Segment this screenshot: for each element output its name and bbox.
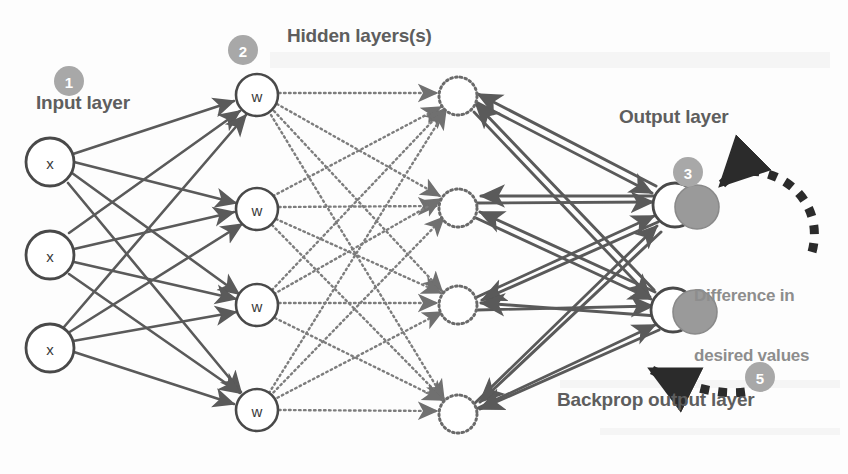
weight-node-1 xyxy=(236,74,278,116)
weight-node-4 xyxy=(236,389,278,431)
output-layer-label: Output layer xyxy=(619,106,729,128)
badge-2-circle xyxy=(228,35,258,65)
hidden-layer-1-nodes xyxy=(236,74,278,431)
input-node-2 xyxy=(26,231,74,279)
diagram-canvas: x x x w w w w 1 2 3 5 Input layer Hidden… xyxy=(0,0,848,474)
difference-label: Difference in desired values xyxy=(694,246,809,406)
edges-input-to-hidden1 xyxy=(64,101,246,404)
input-layer-label: Input layer xyxy=(36,92,130,114)
hidden2-node-4 xyxy=(439,395,477,433)
difference-arrow xyxy=(722,171,814,252)
difference-label-line2: desired values xyxy=(694,346,809,366)
hidden-layer-2-nodes xyxy=(439,77,477,433)
hidden-layers-label: Hidden layers(s) xyxy=(287,25,432,47)
hidden2-node-2 xyxy=(439,189,477,227)
input-node-1 xyxy=(26,138,74,186)
output-node-1-desired xyxy=(675,185,719,229)
input-layer-nodes xyxy=(26,138,74,372)
hidden2-node-1 xyxy=(439,77,477,115)
weight-node-2 xyxy=(236,188,278,230)
input-node-3 xyxy=(26,324,74,372)
hidden2-node-3 xyxy=(439,286,477,324)
badge-3-circle xyxy=(673,157,703,187)
difference-label-line1: Difference in xyxy=(694,286,809,306)
edges-hidden1-to-hidden2 xyxy=(269,93,446,411)
backprop-label: Backprop output layer xyxy=(557,389,754,411)
edges-hidden2-to-output-forward xyxy=(474,102,657,409)
weight-node-3 xyxy=(236,284,278,326)
